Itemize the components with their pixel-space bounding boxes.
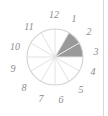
hour-label-11: 11 <box>24 22 33 32</box>
hour-label-12: 12 <box>49 10 59 20</box>
hour-label-3: 3 <box>94 47 99 57</box>
hour-label-9: 9 <box>11 64 16 74</box>
hour-label-10: 10 <box>10 42 20 52</box>
hour-label-2: 2 <box>87 27 92 37</box>
clock-pie-figure: 12 1 2 3 4 5 6 7 8 9 10 11 <box>0 0 108 116</box>
hour-label-1: 1 <box>72 14 77 24</box>
hour-label-7: 7 <box>39 94 44 104</box>
hour-label-5: 5 <box>79 85 84 95</box>
hour-label-8: 8 <box>22 83 27 93</box>
hour-label-6: 6 <box>59 95 64 105</box>
hour-label-4: 4 <box>91 67 96 77</box>
